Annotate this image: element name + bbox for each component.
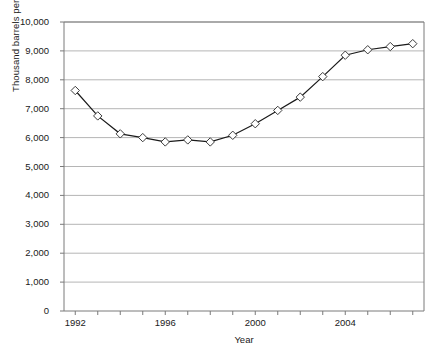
line-chart-plot xyxy=(0,0,447,356)
data-point-marker xyxy=(206,138,214,146)
y-tick-label: 2,000 xyxy=(25,247,58,258)
data-point-marker xyxy=(409,39,417,47)
data-point-marker xyxy=(274,106,282,114)
x-tick-label: 1996 xyxy=(145,317,185,328)
x-tick-label: 2000 xyxy=(235,317,275,328)
data-point-marker xyxy=(184,136,192,144)
y-tick-label: 8,000 xyxy=(25,74,58,85)
data-point-marker xyxy=(251,120,259,128)
data-series-line xyxy=(75,44,413,142)
x-tick-label: 1992 xyxy=(55,317,95,328)
data-point-marker xyxy=(229,131,237,139)
y-tick-label: 9,000 xyxy=(25,45,58,56)
data-point-marker xyxy=(364,46,372,54)
y-tick-label: 0 xyxy=(44,305,58,316)
x-axis-title: Year xyxy=(64,334,424,345)
data-point-marker xyxy=(386,42,394,50)
data-point-marker xyxy=(161,138,169,146)
y-tick-label: 10,000 xyxy=(20,16,58,27)
data-point-marker xyxy=(139,133,147,141)
chart-figure: Thousand barrels per day 01,0002,0003,00… xyxy=(0,0,447,356)
y-tick-label: 5,000 xyxy=(25,161,58,172)
x-tick-label: 2004 xyxy=(325,317,365,328)
y-tick-label: 6,000 xyxy=(25,132,58,143)
y-tick-label: 4,000 xyxy=(25,189,58,200)
y-tick-label: 3,000 xyxy=(25,218,58,229)
y-tick-label: 7,000 xyxy=(25,103,58,114)
y-tick-label: 1,000 xyxy=(25,276,58,287)
